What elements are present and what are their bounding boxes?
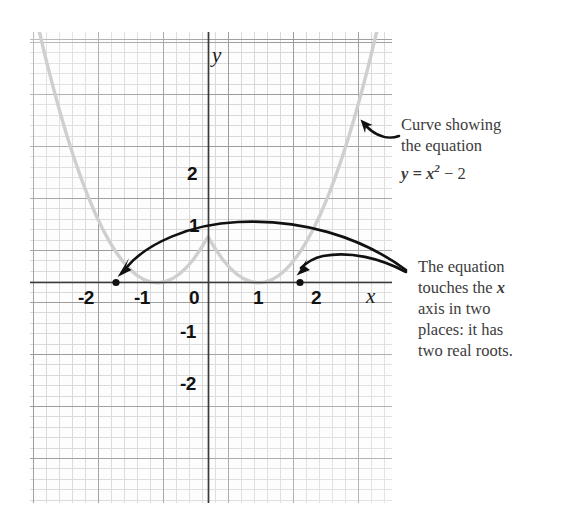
y-tick-label--2: -2: [180, 373, 196, 395]
x-axis-label: x: [366, 284, 375, 309]
annotation-roots-line4: places: it has: [418, 319, 566, 340]
y-tick-label-2: 2: [187, 163, 197, 185]
x-tick-label-1: 1: [253, 287, 263, 309]
x-tick-label--1: -1: [134, 287, 150, 309]
y-tick-label-1: 1: [189, 215, 199, 237]
annotation-curve-line2: the equation: [401, 135, 561, 156]
annotation-roots-line5: two real roots.: [418, 340, 566, 361]
equation-tail: − 2: [440, 164, 466, 183]
annotation-curve-note: Curve showing the equation y = x2 − 2: [401, 114, 561, 184]
y-axis-label: y: [212, 43, 221, 68]
root-marker-left: [112, 279, 119, 286]
y-tick-label--1: -1: [180, 321, 196, 343]
annotation-roots-line3: axis in two: [418, 298, 566, 319]
x-tick-label-2: 2: [311, 287, 321, 309]
figure-canvas: -2 -1 0 1 2 2 1 -1 -2 y x Curve showing …: [0, 0, 567, 514]
annotation-curve-equation: y = x2 − 2: [401, 158, 561, 184]
x-tick-label-0: 0: [189, 287, 199, 309]
annotation-curve-line1: Curve showing: [401, 114, 561, 135]
annotation-roots-x-italic: x: [497, 278, 505, 297]
annotation-roots-note: The equation touches the x axis in two p…: [418, 256, 566, 361]
root-marker-right: [296, 279, 303, 286]
annotation-roots-line1: The equation: [418, 256, 566, 277]
annotation-roots-line2: touches the x: [418, 277, 566, 298]
annotation-roots-line2-text: touches the: [418, 278, 497, 297]
x-tick-label--2: -2: [78, 287, 94, 309]
equation-lhs: y = x: [401, 164, 434, 183]
callout-arrow-root-left: [118, 222, 407, 277]
callout-arrow-curve: [361, 120, 400, 138]
